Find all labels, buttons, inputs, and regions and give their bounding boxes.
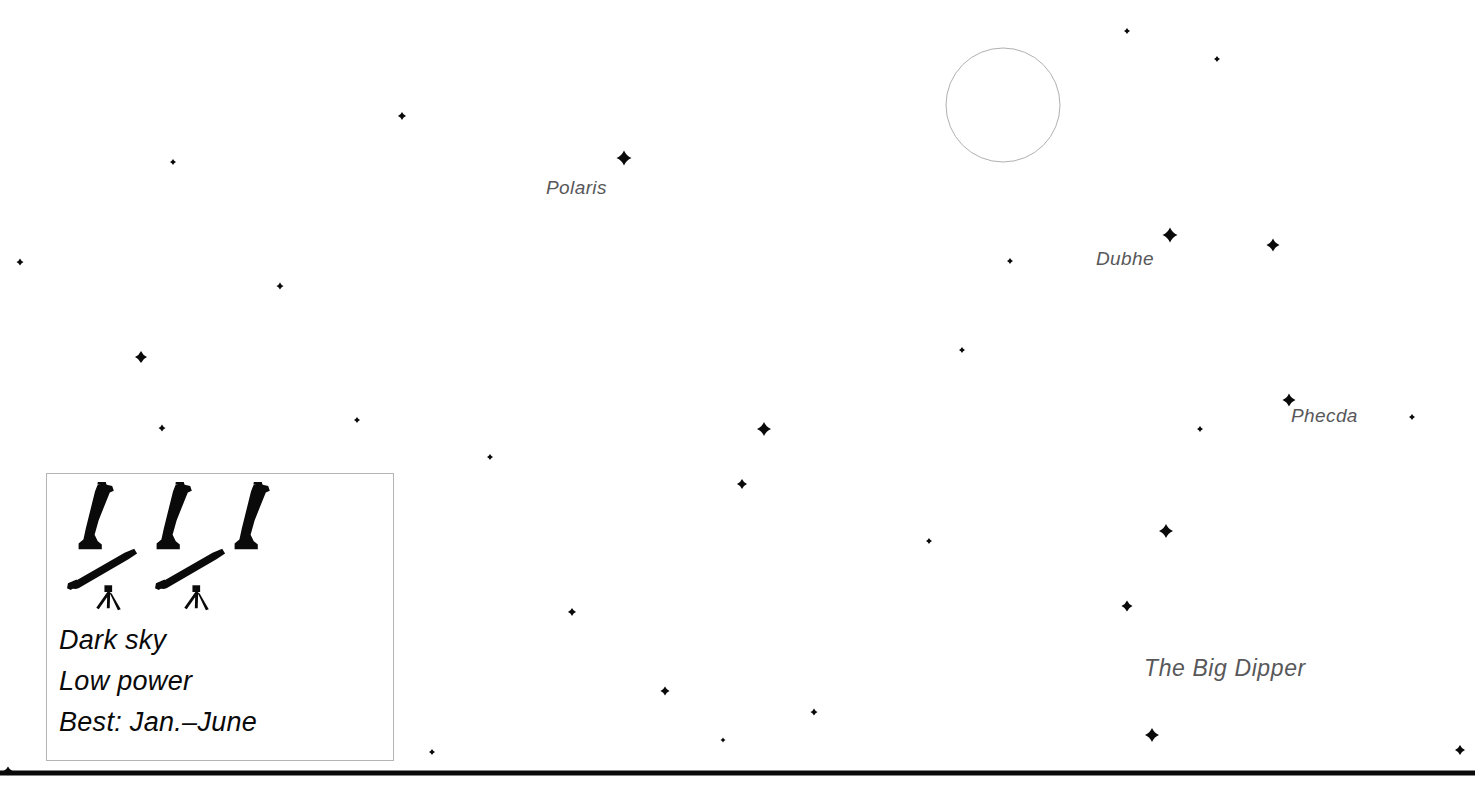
star-marker bbox=[959, 347, 965, 353]
legend-line-best-season: Best: Jan.–June bbox=[59, 702, 383, 743]
moon-group bbox=[946, 48, 1060, 162]
star-marker bbox=[661, 687, 670, 696]
star-marker bbox=[721, 738, 726, 743]
legend-line-low-power: Low power bbox=[59, 661, 383, 702]
star-marker bbox=[487, 454, 493, 460]
constellation-label-big-dipper: The Big Dipper bbox=[1144, 657, 1306, 680]
star-marker bbox=[757, 422, 771, 436]
telescope-cannon-icon bbox=[235, 482, 270, 549]
legend-text-block: Dark sky Low power Best: Jan.–June bbox=[59, 620, 383, 743]
star-marker bbox=[17, 259, 24, 266]
star-label-phecda: Phecda bbox=[1291, 406, 1358, 425]
telescope-tripod-icon bbox=[67, 549, 137, 610]
star-marker bbox=[1455, 745, 1465, 755]
star-marker bbox=[926, 538, 932, 544]
legend-box: Dark sky Low power Best: Jan.–June bbox=[46, 473, 394, 761]
star-marker bbox=[1214, 56, 1220, 62]
legend-icons bbox=[59, 482, 383, 616]
telescope-cannon-icon bbox=[79, 482, 114, 549]
star-label-polaris: Polaris bbox=[546, 178, 607, 197]
star-marker bbox=[617, 151, 632, 166]
star-marker bbox=[354, 417, 360, 423]
star-marker bbox=[811, 709, 818, 716]
star-marker bbox=[1197, 426, 1203, 432]
star-marker bbox=[159, 425, 166, 432]
telescope-tripod-icon bbox=[155, 549, 225, 610]
star-marker bbox=[398, 112, 406, 120]
star-marker bbox=[1007, 258, 1013, 264]
star-marker bbox=[1163, 228, 1178, 243]
moon-outline-icon bbox=[946, 48, 1060, 162]
star-marker bbox=[1409, 414, 1415, 420]
star-marker bbox=[1159, 524, 1173, 538]
star-marker bbox=[1124, 28, 1130, 34]
star-marker bbox=[1122, 601, 1133, 612]
star-marker bbox=[568, 608, 576, 616]
star-marker bbox=[737, 479, 747, 489]
star-marker bbox=[1145, 728, 1159, 742]
telescope-cannon-icon bbox=[157, 482, 192, 549]
star-marker bbox=[1267, 239, 1280, 252]
star-marker bbox=[429, 749, 435, 755]
star-marker bbox=[170, 159, 176, 165]
legend-line-dark-sky: Dark sky bbox=[59, 620, 383, 661]
star-chart: PolarisDubhePhecda The Big Dipper Dark s… bbox=[0, 0, 1475, 800]
star-label-dubhe: Dubhe bbox=[1096, 249, 1154, 268]
star-marker bbox=[277, 283, 284, 290]
star-marker bbox=[135, 351, 147, 363]
